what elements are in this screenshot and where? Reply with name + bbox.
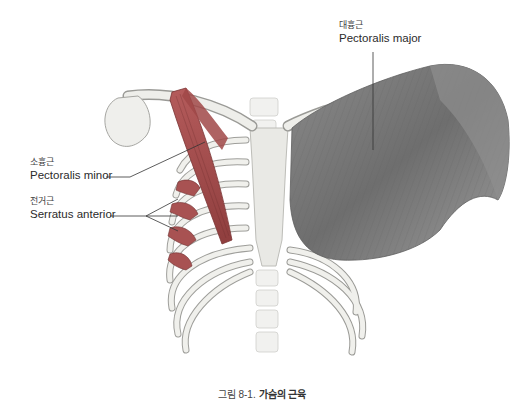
chest-muscles-figure: 대흉근 Pectoralis major 소흉근 Pectoralis mino… — [0, 0, 524, 412]
label-serratus-anterior: 전거근 Serratus anterior — [30, 196, 116, 222]
caption-title: 가슴의 근육 — [259, 389, 307, 400]
figure-caption: 그림 8-1. 가슴의 근육 — [0, 386, 524, 401]
label-pectoralis-major-ko: 대흉근 — [339, 20, 421, 31]
caption-prefix: 그림 8-1. — [218, 389, 256, 400]
pectoralis-major-muscle — [290, 64, 509, 260]
label-pectoralis-minor-en: Pectoralis minor — [30, 168, 112, 182]
label-serratus-anterior-ko: 전거근 — [30, 196, 116, 207]
label-pectoralis-major: 대흉근 Pectoralis major — [339, 20, 421, 46]
label-pectoralis-minor-ko: 소흉근 — [30, 157, 112, 168]
left-shoulder-bone — [105, 96, 150, 146]
label-pectoralis-major-en: Pectoralis major — [339, 31, 421, 45]
leader-serratus-anterior — [110, 199, 178, 216]
label-serratus-anterior-en: Serratus anterior — [30, 207, 116, 221]
sternum — [250, 128, 288, 266]
label-pectoralis-minor: 소흉근 Pectoralis minor — [30, 157, 112, 183]
